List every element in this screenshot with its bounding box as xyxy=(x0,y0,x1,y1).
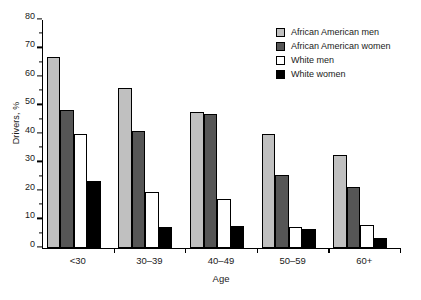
legend-item: White men xyxy=(276,54,391,67)
legend-label: African American women xyxy=(291,42,391,51)
y-tick-label: 80 xyxy=(25,11,35,20)
y-axis-line xyxy=(42,20,43,248)
x-tick xyxy=(114,248,115,253)
bar xyxy=(360,225,374,248)
legend: African American menAfrican American wom… xyxy=(276,26,391,82)
x-tick-label: 40–49 xyxy=(208,256,234,266)
bar xyxy=(190,112,204,248)
x-axis-line xyxy=(42,248,400,249)
x-tick-label: 30–39 xyxy=(136,256,162,266)
x-tick xyxy=(257,248,258,253)
bar xyxy=(74,134,88,248)
bar xyxy=(333,155,347,248)
legend-label: White men xyxy=(291,56,334,65)
x-tick-label: 50–59 xyxy=(279,256,305,266)
bar xyxy=(262,134,276,248)
y-tick-minor xyxy=(39,232,42,233)
legend-label: White women xyxy=(291,70,346,79)
x-tick xyxy=(400,248,401,253)
x-tick xyxy=(185,248,186,253)
y-tick-minor xyxy=(39,118,42,119)
y-tick-minor xyxy=(39,203,42,204)
y-tick-label: 50 xyxy=(25,97,35,106)
y-tick-label: 70 xyxy=(25,40,35,49)
legend-swatch xyxy=(276,56,285,65)
x-tick-label: <30 xyxy=(70,256,86,266)
bar xyxy=(347,187,361,248)
y-axis-title: Drivers, % xyxy=(11,75,21,171)
bar xyxy=(275,175,289,248)
bar xyxy=(87,181,101,248)
y-tick-major xyxy=(37,18,42,19)
y-tick-major xyxy=(37,246,42,247)
legend-swatch xyxy=(276,28,285,37)
y-tick-label: 30 xyxy=(25,154,35,163)
y-tick-label: 60 xyxy=(25,68,35,77)
y-tick-minor xyxy=(39,175,42,176)
bar xyxy=(302,229,316,248)
bar xyxy=(204,114,218,248)
bar xyxy=(217,199,231,248)
legend-swatch xyxy=(276,70,285,79)
y-tick-major xyxy=(37,218,42,219)
x-axis-title: Age xyxy=(42,273,400,284)
bar xyxy=(374,238,388,248)
y-tick-minor xyxy=(39,32,42,33)
bar xyxy=(159,227,173,248)
y-tick-major xyxy=(37,47,42,48)
x-tick xyxy=(328,248,329,253)
y-tick-minor xyxy=(39,146,42,147)
y-tick-major xyxy=(37,104,42,105)
y-tick-label: 0 xyxy=(30,239,35,248)
x-tick-label: 60+ xyxy=(356,256,372,266)
bar xyxy=(118,88,132,248)
bar-chart: Drivers, % 01020304050607080 <3030–3940–… xyxy=(0,0,421,300)
legend-item: White women xyxy=(276,68,391,81)
y-tick-major xyxy=(37,161,42,162)
y-tick-major xyxy=(37,132,42,133)
bar xyxy=(145,192,159,248)
legend-swatch xyxy=(276,42,285,51)
bar xyxy=(289,227,303,248)
y-tick-minor xyxy=(39,89,42,90)
bar xyxy=(47,57,61,248)
y-tick-label: 20 xyxy=(25,182,35,191)
y-tick-major xyxy=(37,189,42,190)
y-tick-minor xyxy=(39,61,42,62)
y-tick-label: 10 xyxy=(25,211,35,220)
bar xyxy=(231,226,245,248)
bar xyxy=(132,131,146,248)
bar xyxy=(60,110,74,248)
legend-item: African American men xyxy=(276,26,391,39)
y-tick-label: 40 xyxy=(25,125,35,134)
legend-item: African American women xyxy=(276,40,391,53)
y-tick-major xyxy=(37,75,42,76)
legend-label: African American men xyxy=(291,28,379,37)
